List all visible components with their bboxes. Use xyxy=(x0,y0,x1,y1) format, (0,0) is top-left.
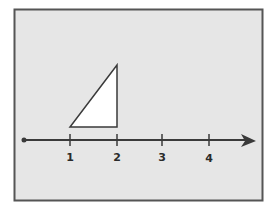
start-dot xyxy=(22,138,27,143)
tick-label-1: 1 xyxy=(66,151,74,164)
tick-label-3: 3 xyxy=(158,151,166,164)
diagram-canvas xyxy=(0,0,267,207)
tick-label-4: 4 xyxy=(205,152,213,165)
tick-label-2: 2 xyxy=(113,151,121,164)
panel xyxy=(15,10,263,201)
